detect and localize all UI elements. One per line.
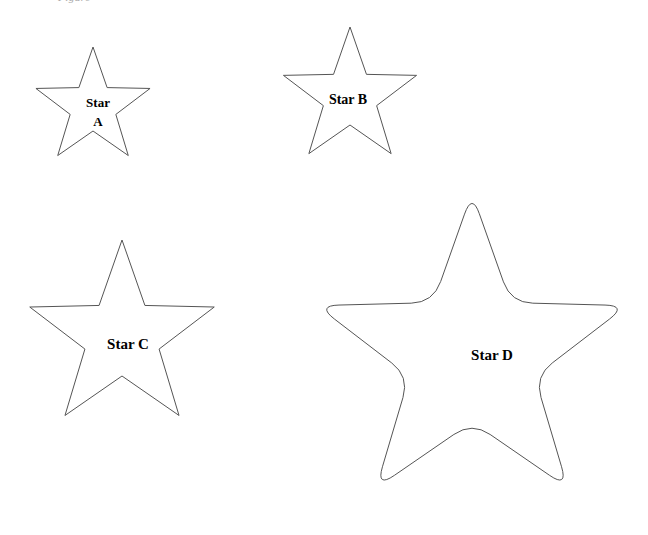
stars-figure-canvas: Star A Star B Star C Star D <box>0 0 648 535</box>
star-group-d: Star D <box>327 203 618 480</box>
star-c-label-line1: Star C <box>107 336 149 352</box>
star-b-label-line1: Star B <box>329 92 367 107</box>
star-a-label-line2: A <box>93 114 103 129</box>
star-c-outline <box>30 240 215 415</box>
star-group-b: Star B <box>283 27 416 154</box>
star-d-label-line1: Star D <box>471 347 513 363</box>
star-group-c: Star C <box>30 240 215 415</box>
star-a-label-line1: Star <box>86 95 110 110</box>
star-b-outline <box>283 27 416 154</box>
star-group-a: Star A <box>36 47 150 156</box>
star-d-outline <box>327 203 618 480</box>
